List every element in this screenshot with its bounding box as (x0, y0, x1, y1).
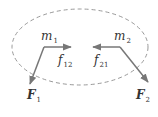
F2-symbol: F (136, 88, 145, 102)
F2-subscript: 2 (146, 96, 150, 104)
label-m2: m2 (114, 30, 131, 45)
f21-subscript: 21 (99, 61, 108, 69)
label-F2: F2 (136, 89, 150, 104)
diagram-graphics (0, 0, 158, 117)
F1-subscript: 1 (37, 96, 41, 104)
m1-subscript: 1 (53, 37, 57, 45)
label-f21: f21 (94, 54, 108, 69)
two-body-system-diagram: m1 m2 f12 f21 F1 F2 (0, 0, 158, 117)
f12-subscript: 12 (63, 61, 72, 69)
m2-subscript: 2 (126, 37, 130, 45)
f21-symbol: f (94, 53, 98, 67)
system-boundary (12, 9, 148, 85)
label-f12: f12 (58, 54, 72, 69)
F1-arrow (30, 47, 44, 84)
m1-symbol: m (41, 29, 52, 43)
label-F1: F1 (27, 89, 41, 104)
f12-symbol: f (58, 53, 62, 67)
F2-arrow (120, 47, 148, 82)
label-m1: m1 (41, 30, 58, 45)
F1-symbol: F (27, 88, 36, 102)
m2-symbol: m (114, 29, 125, 43)
